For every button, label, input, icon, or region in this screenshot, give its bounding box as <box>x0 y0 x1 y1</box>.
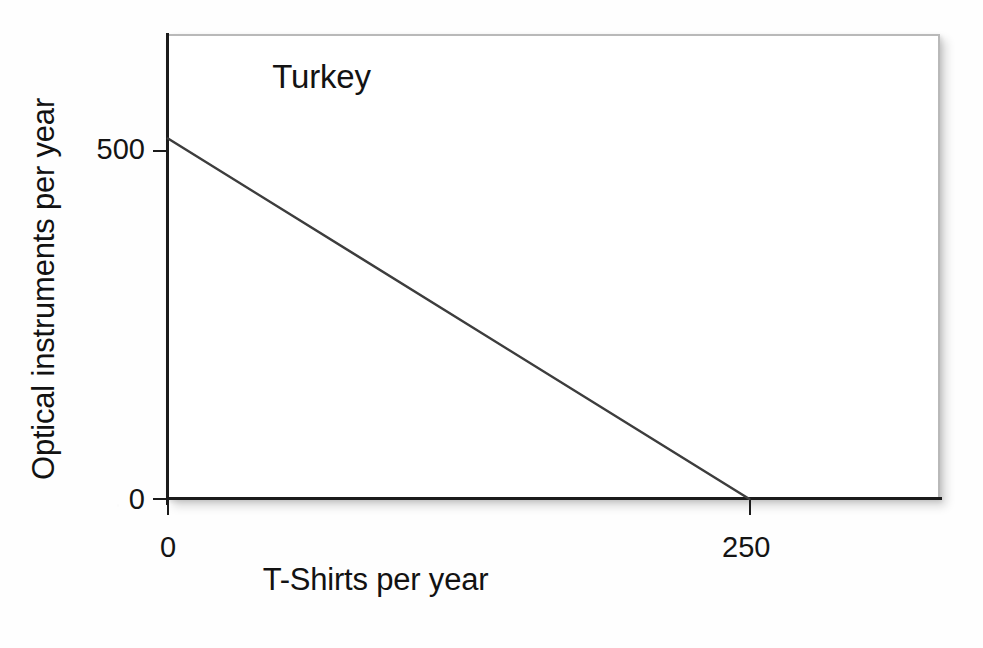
x-tick-250 <box>749 500 751 515</box>
ppf-chart-figure: 500 0 0 250 Optical instruments per year… <box>0 0 983 648</box>
x-axis-line <box>166 497 942 500</box>
x-tick-label-0: 0 <box>160 533 176 562</box>
plot-area <box>167 34 940 500</box>
y-tick-0 <box>153 498 167 500</box>
y-tick-500 <box>153 150 167 152</box>
y-tick-label-500: 500 <box>97 135 145 164</box>
x-tick-0 <box>167 500 169 515</box>
chart-title: Turkey <box>0 58 708 96</box>
y-axis-title: Optical instruments per year <box>22 56 66 522</box>
y-axis-line <box>166 33 169 505</box>
x-tick-label-250: 250 <box>722 533 770 562</box>
y-tick-label-0: 0 <box>129 485 145 514</box>
x-axis-title: T-Shirts per year <box>0 562 762 598</box>
